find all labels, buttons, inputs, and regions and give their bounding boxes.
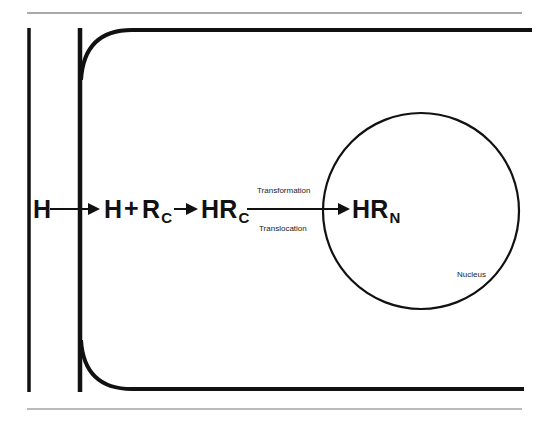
nucleus-label: Nucleus — [457, 271, 486, 279]
arrow-receptor-to-hrc — [174, 203, 198, 215]
hormone-receptor-cytoplasm-label: HRC — [201, 197, 250, 222]
translocation-label: Translocation — [259, 225, 307, 233]
transformation-label: Transformation — [257, 187, 311, 195]
plus-sign: + — [124, 196, 139, 221]
hormone-inside-label: H — [104, 197, 122, 222]
arrow-h-to-complex — [50, 203, 100, 215]
hormone-outside-label: H — [33, 197, 51, 222]
receptor-cytoplasm-label: RC — [142, 197, 172, 222]
diagram-canvas — [0, 0, 554, 422]
hormone-receptor-nucleus-label: HRN — [352, 197, 401, 222]
arrow-hrc-to-hrn — [247, 203, 350, 215]
